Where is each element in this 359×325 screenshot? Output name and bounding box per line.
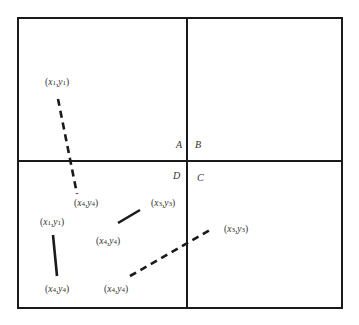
- lbl-mid-x4y4: (x4,y4): [74, 198, 98, 209]
- quadrant-label-c: C: [197, 172, 204, 183]
- seg-solid-short: [118, 210, 140, 223]
- seg-dashed-diagonal: [130, 230, 210, 276]
- quadrant-label-a: A: [175, 139, 183, 150]
- lbl-bottom-left-x4y4: (x4,y4): [45, 284, 69, 295]
- seg-solid-left: [53, 235, 57, 276]
- lbl-right-x3y3: (x3,y3): [224, 224, 248, 235]
- lbl-top-x1y1: (x1,y1): [45, 77, 69, 88]
- point-labels: (x1,y1)(x4,y4)(x3,y3)(x1,y1)(x4,y4)(x3,y…: [40, 77, 248, 295]
- lbl-bottom-mid-x4y4: (x4,y4): [104, 284, 128, 295]
- lbl-left-x1y1: (x1,y1): [40, 217, 64, 228]
- outer-box: [18, 18, 342, 308]
- lbl-short-x4y4: (x4,y4): [96, 236, 120, 247]
- quadrant-label-d: D: [172, 170, 181, 181]
- clipping-diagram: ABDC (x1,y1)(x4,y4)(x3,y3)(x1,y1)(x4,y4)…: [0, 0, 359, 325]
- lbl-x3y3-short: (x3,y3): [151, 198, 175, 209]
- seg-dashed-vertical: [58, 99, 77, 194]
- quadrant-label-b: B: [195, 139, 201, 150]
